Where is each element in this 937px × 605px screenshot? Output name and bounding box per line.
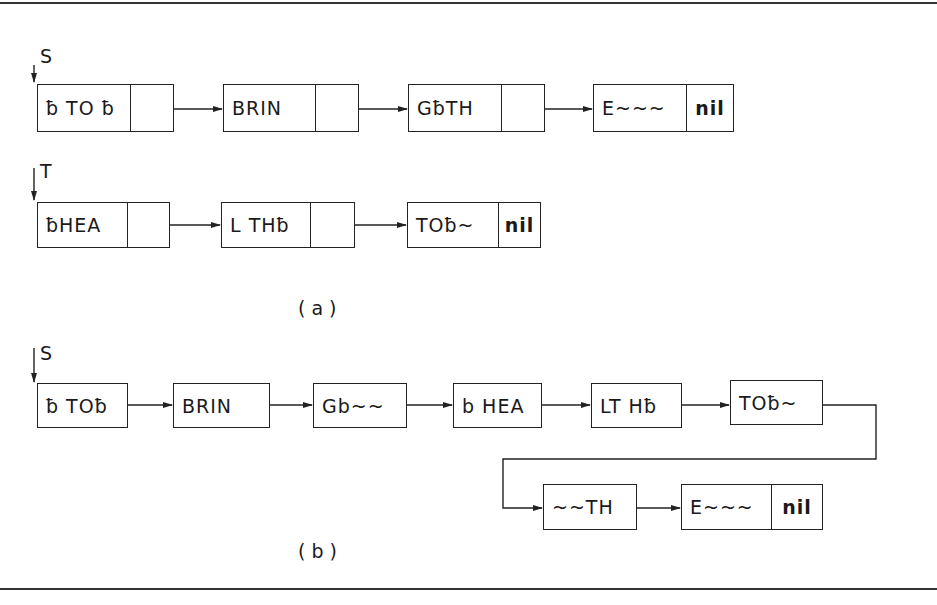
node-data: LT Hƀ bbox=[592, 384, 681, 427]
node-data: L THƀ bbox=[222, 203, 310, 247]
node-a-t-2: L THƀ bbox=[221, 202, 355, 248]
nil-terminator: nil bbox=[498, 203, 540, 247]
node-b-8: E~~~ nil bbox=[681, 484, 823, 530]
nil-terminator: nil bbox=[771, 485, 822, 529]
node-pointer-field bbox=[130, 85, 173, 131]
pointer-label-s-a: S bbox=[40, 45, 52, 67]
node-a-s-2: BRIN bbox=[223, 84, 359, 132]
node-a-t-1: ƀHEA bbox=[37, 202, 170, 248]
node-data: TOƀ~ bbox=[731, 381, 822, 424]
node-data: ƀ TO ƀ bbox=[38, 85, 130, 131]
nil-terminator: nil bbox=[686, 85, 733, 131]
pointer-label-s-b: S bbox=[40, 342, 52, 364]
node-data: E~~~ bbox=[682, 485, 771, 529]
node-pointer-field bbox=[315, 85, 358, 131]
caption-b: (b) bbox=[298, 540, 343, 562]
caption-a: (a) bbox=[298, 297, 342, 319]
node-data: ~~TH bbox=[544, 485, 636, 529]
node-data: E~~~ bbox=[594, 85, 686, 131]
node-b-6: TOƀ~ bbox=[730, 380, 823, 425]
node-b-3: Gb~~ bbox=[313, 383, 407, 428]
node-data: GƀTH bbox=[409, 85, 501, 131]
pointer-label-t-a: T bbox=[40, 160, 52, 182]
node-b-7: ~~TH bbox=[543, 484, 637, 530]
node-b-5: LT Hƀ bbox=[591, 383, 682, 428]
node-b-4: b HEA bbox=[453, 383, 542, 428]
node-data: BRIN bbox=[174, 384, 269, 427]
node-data: b HEA bbox=[454, 384, 541, 427]
node-data: BRIN bbox=[224, 85, 315, 131]
node-a-s-4: E~~~ nil bbox=[593, 84, 734, 132]
node-pointer-field bbox=[310, 203, 354, 247]
node-data: TOƀ~ bbox=[408, 203, 498, 247]
node-a-s-3: GƀTH bbox=[408, 84, 545, 132]
node-b-2: BRIN bbox=[173, 383, 270, 428]
node-pointer-field bbox=[127, 203, 169, 247]
node-data: Gb~~ bbox=[314, 384, 406, 427]
node-pointer-field bbox=[501, 85, 544, 131]
node-b-1: ƀ TOƀ bbox=[37, 383, 128, 428]
node-a-t-3: TOƀ~ nil bbox=[407, 202, 541, 248]
node-a-s-1: ƀ TO ƀ bbox=[37, 84, 174, 132]
node-data: ƀ TOƀ bbox=[38, 384, 127, 427]
node-data: ƀHEA bbox=[38, 203, 127, 247]
